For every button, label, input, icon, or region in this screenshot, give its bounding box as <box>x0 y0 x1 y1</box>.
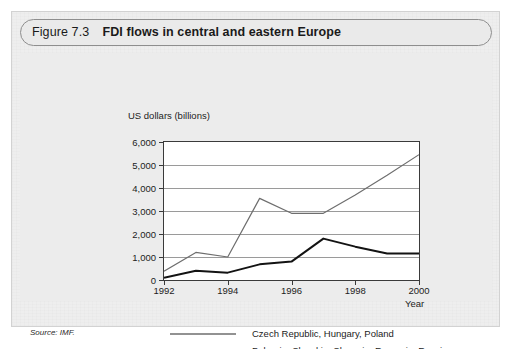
figure-title-text: FDI flows in central and eastern Europe <box>102 25 341 39</box>
figure-number: Figure 7.3 <box>32 25 89 39</box>
x-tick-mark <box>228 281 229 285</box>
x-tick-label: 1996 <box>281 285 302 296</box>
legend-line-icon-0 <box>170 327 238 341</box>
legend-item-0: Czech Republic, Hungary, Poland <box>170 325 447 342</box>
chart-legend: Czech Republic, Hungary, Poland Bulgaria… <box>170 325 447 349</box>
legend-label-0: Czech Republic, Hungary, Poland <box>238 328 394 339</box>
y-tick-label: 2,000 <box>132 229 156 240</box>
x-tick-label: 1994 <box>217 285 238 296</box>
x-tick-label: 1992 <box>153 285 174 296</box>
y-tick-label: 1,000 <box>132 252 156 263</box>
series-line-1 <box>164 239 419 278</box>
legend-item-1: Bulgaria, Slovakia, Slovenia, Romania, R… <box>170 342 447 349</box>
chart-panel: US dollars (billions) Year 6,0005,0004,0… <box>20 53 492 301</box>
x-axis-title: Year <box>405 298 424 309</box>
y-axis-title: US dollars (billions) <box>128 110 210 121</box>
y-tick-label: 0 <box>151 275 156 286</box>
series-line-0 <box>164 155 419 272</box>
x-tick-mark <box>292 281 293 285</box>
y-tick-label: 4,000 <box>132 183 156 194</box>
y-tick-label: 3,000 <box>132 206 156 217</box>
y-tick-label: 5,000 <box>132 160 156 171</box>
y-tick-label: 6,000 <box>132 137 156 148</box>
legend-label-1: Bulgaria, Slovakia, Slovenia, Romania, R… <box>238 345 447 349</box>
figure-screenshot: Figure 7.3 FDI flows in central and east… <box>0 0 511 349</box>
x-tick-mark <box>164 281 165 285</box>
x-tick-label: 2000 <box>408 285 429 296</box>
series-lines <box>164 142 419 280</box>
source-note: Source: IMF. <box>30 328 75 337</box>
figure-card: Figure 7.3 FDI flows in central and east… <box>11 11 500 327</box>
x-tick-mark <box>419 281 420 285</box>
x-tick-label: 1998 <box>345 285 366 296</box>
plot-area <box>163 141 420 281</box>
figure-title: Figure 7.3 FDI flows in central and east… <box>32 25 341 39</box>
x-tick-mark <box>355 281 356 285</box>
legend-line-icon-1 <box>170 344 238 349</box>
